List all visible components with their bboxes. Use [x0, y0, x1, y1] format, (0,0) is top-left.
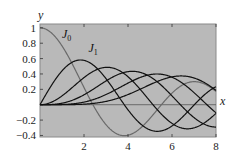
- y-tick-label: −0.2: [16, 114, 36, 126]
- bessel-chart: 246810.80.60.40.2−0.2−0.4 x y J0J1: [0, 0, 236, 158]
- x-tick-label: 2: [81, 140, 87, 152]
- x-tick-label: 4: [125, 140, 131, 152]
- y-tick-label: 0.4: [22, 68, 36, 80]
- x-axis-label: x: [219, 94, 226, 108]
- y-axis-label: y: [37, 8, 44, 22]
- y-tick-label: 0.8: [22, 37, 36, 49]
- y-tick-label: 1: [31, 22, 37, 34]
- x-tick-label: 8: [213, 140, 219, 152]
- x-tick-label: 6: [169, 140, 175, 152]
- y-tick-label: −0.4: [16, 129, 36, 141]
- y-tick-label: 0.2: [22, 83, 36, 95]
- y-tick-label: 0.6: [22, 53, 36, 65]
